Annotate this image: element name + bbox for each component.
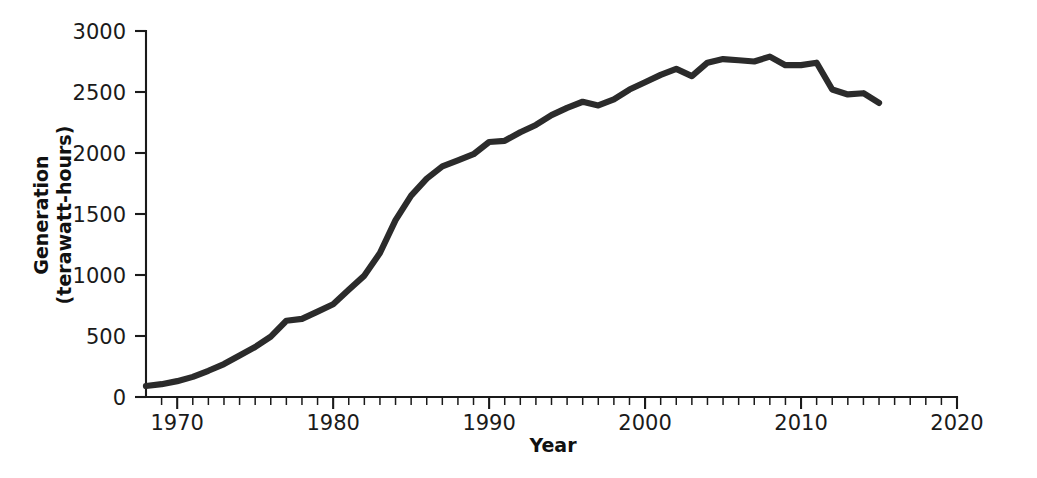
y-tick-label: 2500 bbox=[73, 81, 126, 105]
x-tick-label: 1980 bbox=[306, 411, 359, 435]
chart-figure: Generation (terawatt-hours) Year 0500100… bbox=[0, 0, 1037, 478]
x-axis-title: Year bbox=[528, 434, 577, 456]
y-tick-label: 2000 bbox=[73, 142, 126, 166]
y-axis-title-line1: Generation bbox=[30, 155, 52, 274]
x-axis-ticks: 197019801990200020102020 bbox=[150, 397, 983, 435]
y-tick-label: 0 bbox=[113, 386, 126, 410]
x-tick-label: 1970 bbox=[150, 411, 203, 435]
y-axis-title: Generation (terawatt-hours) bbox=[30, 126, 75, 305]
y-tick-label: 1000 bbox=[73, 264, 126, 288]
y-tick-label: 500 bbox=[86, 325, 126, 349]
x-tick-label: 2020 bbox=[930, 411, 983, 435]
data-series-line bbox=[146, 57, 879, 386]
y-axis-ticks: 050010001500200025003000 bbox=[73, 20, 146, 410]
x-tick-label: 1990 bbox=[462, 411, 515, 435]
x-tick-label: 2010 bbox=[774, 411, 827, 435]
x-tick-label: 2000 bbox=[618, 411, 671, 435]
line-chart-svg: Generation (terawatt-hours) Year 0500100… bbox=[0, 0, 1037, 478]
y-tick-label: 3000 bbox=[73, 20, 126, 44]
y-tick-label: 1500 bbox=[73, 203, 126, 227]
